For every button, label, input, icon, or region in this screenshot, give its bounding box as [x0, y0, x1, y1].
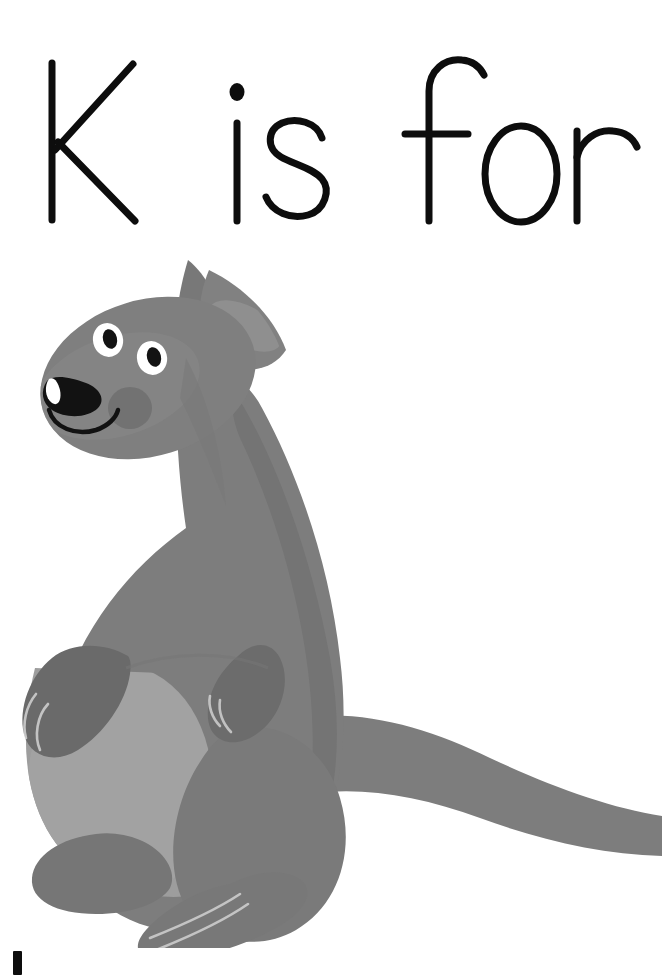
- kangaroo-svg: A grey cartoon kangaroo standing upright…: [0, 238, 662, 948]
- heading-svg: K is for: [0, 0, 662, 240]
- heading-letter-f: [405, 60, 484, 221]
- page-title: K is for: [0, 0, 662, 240]
- heading-letter-k: [52, 63, 135, 221]
- heading-letter-o: [485, 126, 557, 222]
- alphabet-page: K is for A grey cartoon kangaroo standin…: [0, 0, 662, 975]
- kangaroo-illustration: A grey cartoon kangaroo standing upright…: [0, 238, 662, 948]
- heading-letter-s: [266, 121, 326, 217]
- kangaroo-cheek-patch: [108, 387, 152, 429]
- bottom-cutoff-glyph: [13, 951, 22, 975]
- heading-letter-i-dot: [230, 83, 245, 101]
- heading-letter-r: [577, 131, 637, 221]
